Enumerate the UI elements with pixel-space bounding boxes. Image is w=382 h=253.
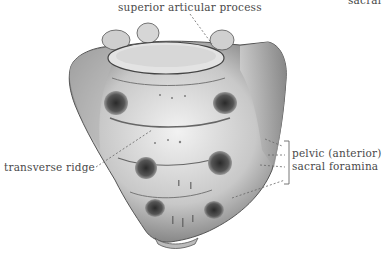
foramen-right-3	[204, 201, 224, 219]
leader-superior-articular	[190, 14, 212, 44]
label-pelvic-foramina-line1: pelvic (anterior)	[292, 147, 382, 159]
label-transverse-ridge: transverse ridge	[4, 161, 95, 173]
foramen-left-2	[135, 157, 157, 179]
foramen-left-1	[104, 91, 128, 115]
label-sacral-cropped: sacral	[348, 0, 381, 6]
label-superior-articular-process: superior articular process	[118, 1, 262, 13]
foramen-right-2	[208, 151, 232, 175]
foramen-left-3	[145, 199, 165, 217]
foramina-bracket	[284, 141, 289, 184]
superior-articular-process-right	[210, 30, 234, 50]
foramen-right-1	[213, 92, 237, 114]
label-pelvic-foramina-line2: sacral foramina	[292, 160, 378, 172]
